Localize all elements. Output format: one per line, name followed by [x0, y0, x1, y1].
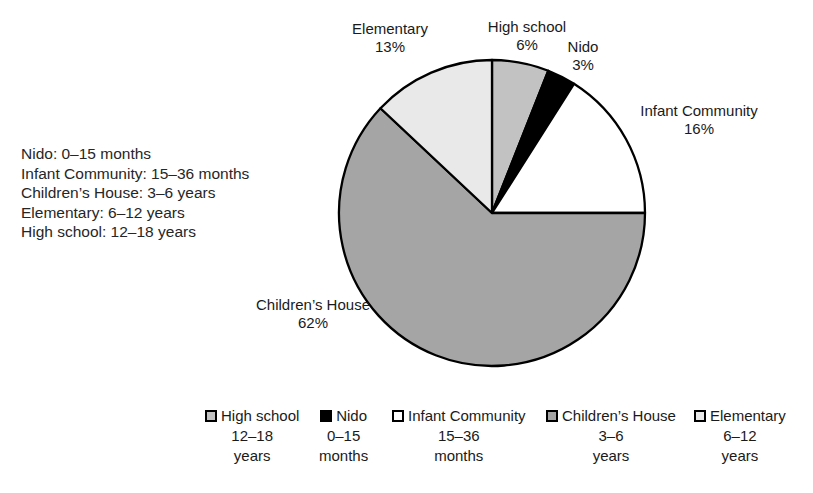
- info-line-infant-community: Infant Community: 15–36 months: [21, 164, 249, 184]
- legend-label: Nido: [336, 406, 367, 426]
- slice-label-name: High school: [488, 18, 566, 36]
- info-line-nido: Nido: 0–15 months: [21, 144, 249, 164]
- legend-range: 6–12: [694, 426, 786, 446]
- slice-label-infant-community: Infant Community 16%: [640, 102, 758, 137]
- legend-item-nido: Nido 0–15 months: [319, 406, 368, 465]
- slice-label-name: Infant Community: [640, 102, 758, 120]
- high-school-legend-swatch: [205, 410, 217, 422]
- slice-label-name: Elementary: [352, 20, 428, 38]
- legend-range: 12–18: [205, 426, 299, 446]
- age-range-info-block: Nido: 0–15 months Infant Community: 15–3…: [21, 144, 249, 242]
- legend-item-high-school: High school 12–18 years: [205, 406, 299, 465]
- slice-label-name: Nido: [568, 38, 599, 56]
- legend-unit: months: [392, 446, 526, 466]
- legend-item-infant-community: Infant Community 15–36 months: [392, 406, 526, 465]
- pie-chart: [334, 55, 650, 371]
- legend-unit: years: [546, 446, 676, 466]
- slice-label-childrens-house: Children’s House 62%: [256, 296, 370, 331]
- legend-range: 0–15: [319, 426, 368, 446]
- chart-canvas: Nido: 0–15 months Infant Community: 15–3…: [0, 0, 813, 493]
- slice-label-nido: Nido 3%: [568, 38, 599, 73]
- legend-unit: years: [694, 446, 786, 466]
- slice-label-high-school: High school 6%: [488, 18, 566, 53]
- slice-label-value: 3%: [568, 56, 599, 74]
- legend-unit: years: [205, 446, 299, 466]
- legend-range: 15–36: [392, 426, 526, 446]
- legend-item-elementary: Elementary 6–12 years: [694, 406, 786, 465]
- slice-label-value: 16%: [640, 120, 758, 138]
- info-line-elementary: Elementary: 6–12 years: [21, 203, 249, 223]
- info-line-high-school: High school: 12–18 years: [21, 222, 249, 242]
- nido-legend-swatch: [320, 410, 332, 422]
- legend-label: Elementary: [710, 406, 786, 426]
- slice-label-value: 62%: [256, 314, 370, 332]
- legend-item-childrens-house: Children’s House 3–6 years: [546, 406, 676, 465]
- legend-label: Children’s House: [562, 406, 676, 426]
- legend-label: High school: [221, 406, 299, 426]
- legend: High school 12–18 years Nido 0–15 months…: [0, 406, 813, 472]
- legend-range: 3–6: [546, 426, 676, 446]
- legend-label: Infant Community: [408, 406, 526, 426]
- childrens-house-legend-swatch: [546, 410, 558, 422]
- info-line-childrens-house: Children’s House: 3–6 years: [21, 183, 249, 203]
- elementary-legend-swatch: [694, 410, 706, 422]
- slice-label-value: 6%: [488, 36, 566, 54]
- slice-label-name: Children’s House: [256, 296, 370, 314]
- pie-plot-area: [334, 55, 650, 371]
- slice-label-value: 13%: [352, 38, 428, 56]
- slice-label-elementary: Elementary 13%: [352, 20, 428, 55]
- legend-unit: months: [319, 446, 368, 466]
- infant-community-legend-swatch: [392, 410, 404, 422]
